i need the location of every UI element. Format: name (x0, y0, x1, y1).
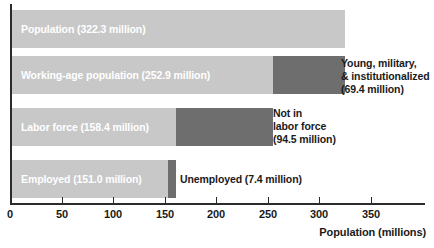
x-tick-label-150: 150 (156, 208, 174, 220)
x-tick-label-250: 250 (259, 208, 277, 220)
bar-label-labor-force: Labor force (158.4 million) (12, 121, 149, 133)
bar-row-population: Population (322.3 million) (12, 10, 345, 48)
bar-label-employed: Employed (151.0 million) (12, 173, 142, 185)
bar-segment-labor-force-primary: Labor force (158.4 million) (12, 108, 176, 146)
annotation-young-military-institutionalized: Young, military, & institutionalized (69… (341, 57, 430, 96)
bar-segment-not-in-labor-force (176, 108, 273, 146)
annotation-not-in-labor-force: Not in labor force (94.5 million) (273, 107, 336, 146)
x-tick-350 (371, 197, 372, 204)
x-tick-label-100: 100 (104, 208, 122, 220)
annotation-young-military-line2: & institutionalized (341, 70, 430, 83)
annotation-not-in-labor-force-line3: (94.5 million) (273, 133, 336, 146)
annotation-unemployed: Unemployed (7.4 million) (180, 173, 302, 186)
annotation-young-military-line3: (69.4 million) (341, 83, 430, 96)
bar-segment-working-age-primary: Working-age population (252.9 million) (12, 56, 273, 94)
bar-row-labor-force: Labor force (158.4 million) (12, 108, 273, 146)
x-tick-label-300: 300 (310, 208, 328, 220)
bar-segment-unemployed (168, 160, 176, 198)
x-tick-250 (268, 197, 269, 204)
x-tick-150 (165, 197, 166, 204)
x-axis-line (10, 203, 425, 205)
annotation-young-military-line1: Young, military, (341, 57, 430, 70)
x-tick-label-200: 200 (207, 208, 225, 220)
annotation-not-in-labor-force-line1: Not in (273, 107, 336, 120)
x-tick-100 (113, 197, 114, 204)
x-axis-title: Population (millions) (319, 226, 426, 238)
x-tick-label-0: 0 (7, 208, 13, 220)
bar-row-employed: Employed (151.0 million) (12, 160, 176, 198)
bar-row-working-age: Working-age population (252.9 million) (12, 56, 345, 94)
bar-label-working-age: Working-age population (252.9 million) (12, 69, 210, 81)
x-tick-200 (216, 197, 217, 204)
bar-segment-population-primary: Population (322.3 million) (12, 10, 345, 48)
x-tick-label-50: 50 (56, 208, 68, 220)
bar-label-population: Population (322.3 million) (12, 23, 146, 35)
x-tick-0 (10, 197, 11, 204)
x-tick-label-350: 350 (362, 208, 380, 220)
annotation-not-in-labor-force-line2: labor force (273, 120, 336, 133)
annotation-unemployed-line1: Unemployed (7.4 million) (180, 173, 302, 186)
bar-segment-young-military-institutionalized (273, 56, 345, 94)
x-tick-300 (319, 197, 320, 204)
x-tick-50 (62, 197, 63, 204)
population-labor-force-chart: Population (322.3 million) Working-age p… (0, 0, 434, 248)
bar-segment-employed-primary: Employed (151.0 million) (12, 160, 168, 198)
